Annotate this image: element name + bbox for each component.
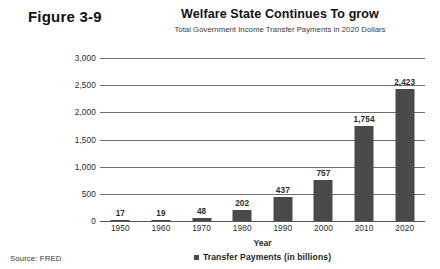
bar-value-label: 48 xyxy=(197,207,206,216)
chart-subtitle: Total Government Income Transfer Payment… xyxy=(130,25,430,35)
bar-value-label: 1,754 xyxy=(354,115,375,124)
bar xyxy=(395,89,414,221)
y-axis-tick-label: 1,000 xyxy=(40,162,96,172)
title-block: Welfare State Continues To grow Total Go… xyxy=(130,7,430,35)
bar-slot: 2,423 xyxy=(384,58,425,221)
chart-legend: Transfer Payments (in billions) xyxy=(100,252,425,262)
bar xyxy=(273,197,292,221)
bar-value-label: 437 xyxy=(276,186,290,195)
x-axis-title: Year xyxy=(100,238,425,248)
gridline xyxy=(100,221,425,222)
x-axis-tick-label: 1980 xyxy=(233,223,252,233)
chart-title: Welfare State Continues To grow xyxy=(130,7,430,22)
plot-wrapper: 05001,0001,5002,0002,5003,000 1719482024… xyxy=(0,52,440,227)
bar-slot: 437 xyxy=(263,58,304,221)
bar xyxy=(314,180,333,221)
source-note: Source: FRED xyxy=(10,254,61,263)
bar-slot: 48 xyxy=(181,58,222,221)
bar xyxy=(192,218,211,221)
y-axis-tick-label: 2,500 xyxy=(40,80,96,90)
x-axis-tick-labels: 19501960197019801990200020102020 xyxy=(100,223,425,237)
x-axis-tick-label: 2020 xyxy=(395,223,414,233)
legend-swatch-icon xyxy=(194,255,199,260)
bar xyxy=(111,220,130,221)
x-axis-tick-label: 1950 xyxy=(111,223,130,233)
bar-slot: 202 xyxy=(222,58,263,221)
bar xyxy=(233,210,252,221)
y-axis-tick-label: 500 xyxy=(40,189,96,199)
bar-value-label: 202 xyxy=(235,199,249,208)
figure-container: Figure 3-9 Welfare State Continues To gr… xyxy=(0,0,440,269)
y-axis-tick-label: 0 xyxy=(40,216,96,226)
figure-label: Figure 3-9 xyxy=(28,8,102,25)
bar-value-label: 17 xyxy=(116,209,125,218)
bar xyxy=(355,126,374,221)
x-axis-tick-label: 2000 xyxy=(314,223,333,233)
x-axis-tick-label: 1960 xyxy=(152,223,171,233)
plot-area: 1719482024377571,7542,423 xyxy=(100,58,425,221)
bar-value-label: 19 xyxy=(156,209,165,218)
bar-slot: 17 xyxy=(100,58,141,221)
bar xyxy=(151,220,170,221)
y-axis-tick-label: 3,000 xyxy=(40,53,96,63)
bar-slot: 757 xyxy=(303,58,344,221)
y-axis-tick-label: 1,500 xyxy=(40,135,96,145)
x-axis-tick-label: 1990 xyxy=(273,223,292,233)
y-axis-tick-label: 2,000 xyxy=(40,107,96,117)
x-axis-tick-label: 1970 xyxy=(192,223,211,233)
bar-slot: 1,754 xyxy=(344,58,385,221)
bar-value-label: 2,423 xyxy=(394,78,415,87)
bar-value-label: 757 xyxy=(316,169,330,178)
legend-label: Transfer Payments (in billions) xyxy=(203,252,331,262)
y-axis-tick-labels: 05001,0001,5002,0002,5003,000 xyxy=(40,58,96,221)
bars-layer: 1719482024377571,7542,423 xyxy=(100,58,425,221)
x-axis-tick-label: 2010 xyxy=(355,223,374,233)
bar-slot: 19 xyxy=(141,58,182,221)
